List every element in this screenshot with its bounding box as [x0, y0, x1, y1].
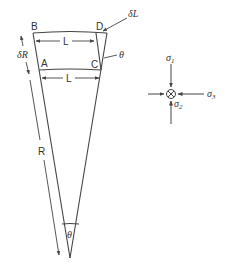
right-radial-edge [70, 33, 107, 258]
corner-label-b: B [31, 21, 38, 32]
stress-state-symbol [148, 64, 204, 124]
sigma2-label: σ2 [174, 98, 183, 111]
theta-side-leader [104, 55, 117, 58]
radius-label: R [38, 146, 45, 157]
corner-label-a: A [41, 58, 48, 69]
delta-r-label: δR [17, 49, 28, 60]
delta-l-leader [103, 18, 127, 31]
corner-label-d: D [96, 21, 103, 32]
apex-angle-label: θ [67, 229, 72, 240]
corner-label-c: C [91, 59, 98, 70]
top-length-label: L [63, 36, 69, 47]
apex-arc-theta [62, 224, 79, 225]
diagram-canvas: L L B D A C δL θ δR R θ σ1 σ2 σ3 [0, 0, 231, 275]
sigma3-label: σ3 [207, 88, 216, 101]
inner-length-label: L [66, 73, 72, 84]
theta-side-label: θ [119, 49, 124, 60]
delta-l-label: δL [128, 8, 139, 19]
sigma1-label: σ1 [166, 52, 174, 65]
